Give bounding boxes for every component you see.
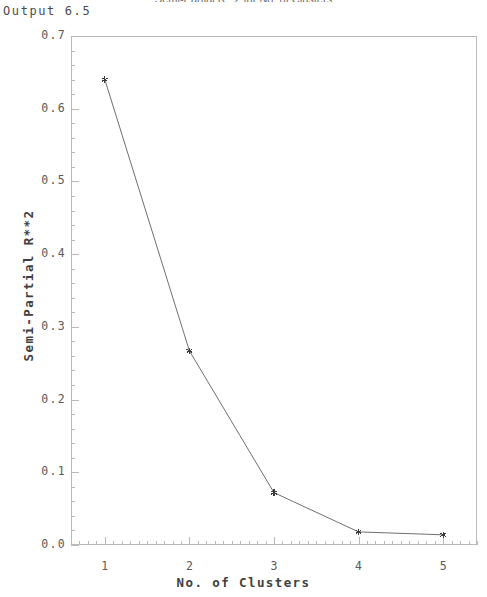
y-axis-title: Semi-Partial R**2 bbox=[21, 176, 36, 396]
x-axis-tick-labels: 12345 bbox=[0, 560, 487, 576]
x-tick-label: 4 bbox=[344, 560, 374, 572]
y-tick-label: 0.0 bbox=[20, 539, 66, 550]
chart-figure: Output 6.5 Semi-Partial R**2 for No. of … bbox=[0, 0, 487, 597]
chart-title: Semi-Partial R**2 for No. of Clusters bbox=[0, 0, 487, 2]
x-axis-title: No. of Clusters bbox=[0, 575, 487, 590]
y-tick-label: 0.7 bbox=[20, 30, 66, 41]
y-tick-label: 0.6 bbox=[20, 103, 66, 114]
x-tick-label: 5 bbox=[428, 560, 458, 572]
x-tick-label: 1 bbox=[90, 560, 120, 572]
x-tick-label: 3 bbox=[259, 560, 289, 572]
y-tick-label: 0.1 bbox=[20, 466, 66, 477]
plot-area bbox=[71, 36, 477, 545]
x-tick-label: 2 bbox=[174, 560, 204, 572]
